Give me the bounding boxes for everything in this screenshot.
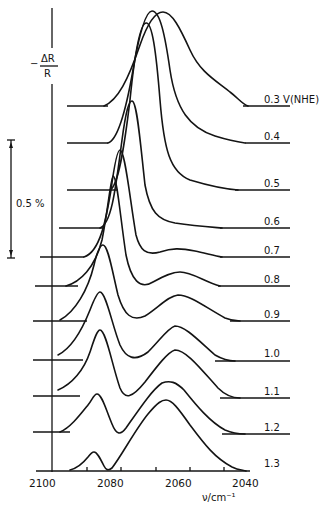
label-1.0: 1.0 [264,348,280,359]
scale-bar-label: 0.5 % [16,198,45,209]
label-0.7: 0.7 [264,245,280,256]
x-tick-2100: 2100 [29,477,56,489]
label-0.5: 0.5 [264,178,280,189]
x-tick-2040: 2040 [232,477,259,489]
spectra-curves [58,11,248,471]
x-tick-2060: 2060 [165,477,192,489]
curve-0.7V [84,150,222,257]
curve-0.8V [66,176,220,286]
label-1.3: 1.3 [264,458,280,469]
series-labels: 0.3 V(NHE) 0.4 0.5 0.6 0.7 0.8 0.9 1.0 1… [264,94,319,469]
curve-1.3V [70,400,246,471]
label-1.2: 1.2 [264,422,280,433]
scale-bar [7,140,15,258]
x-axis-label: ν/cm⁻¹ [202,492,235,503]
label-0.6: 0.6 [264,216,280,227]
curve-1.1V [58,330,240,398]
curve-0.4V [108,11,245,143]
label-0.3V: 0.3 V(NHE) [264,94,319,105]
curve-0.6V [100,101,222,228]
label-1.1: 1.1 [264,386,280,397]
label-0.4: 0.4 [264,131,280,142]
curve-1.0V [58,292,235,361]
y-axis-sign: − [30,58,38,69]
spectra-chart: − ΔR R 0.5 % 2100 2080 2060 2040 ν/cm⁻¹ [0,0,321,506]
y-axis-label-bottom: R [44,68,51,79]
curve-0.3V [104,12,248,106]
x-tick-2080: 2080 [97,477,124,489]
baselines [33,106,290,434]
y-axis-label-top: ΔR [41,53,55,64]
curve-0.5V [110,23,238,190]
label-0.9: 0.9 [264,309,280,320]
label-0.8: 0.8 [264,274,280,285]
